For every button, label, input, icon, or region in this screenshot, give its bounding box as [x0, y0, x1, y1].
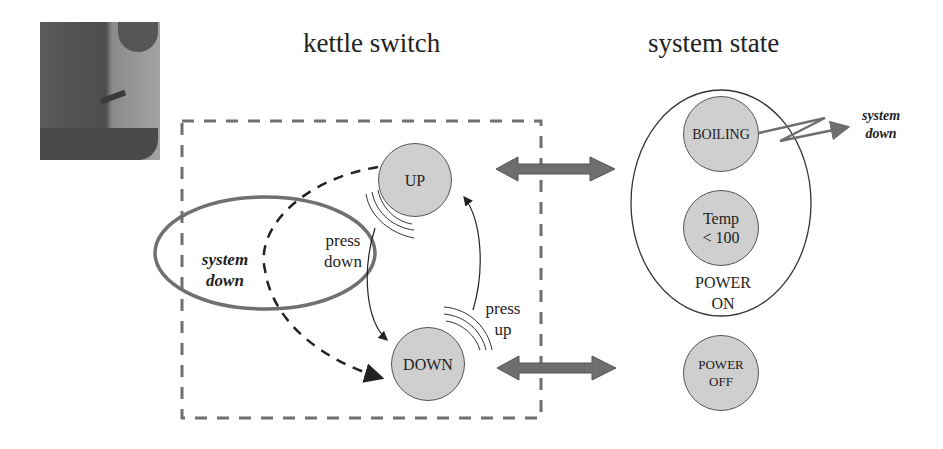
- power-on-line1: POWER: [688, 272, 758, 293]
- press-up-line2: up: [483, 319, 523, 340]
- press-up-arrow: [464, 197, 480, 310]
- press-up-line1: press: [483, 298, 523, 319]
- node-power-off-line2: OFF: [709, 373, 733, 390]
- zigzag-arrow: [759, 118, 848, 141]
- diagram-lines: [0, 0, 943, 449]
- node-up: UP: [378, 143, 452, 217]
- node-down-label: DOWN: [403, 355, 453, 374]
- system-down-switch-label: system down: [195, 249, 255, 291]
- system-down-line2: down: [195, 270, 255, 291]
- system-down-state-line2: down: [855, 125, 907, 143]
- press-down-line2: down: [318, 251, 368, 272]
- double-arrow-up-boiling: [496, 157, 615, 181]
- system-down-state-line1: system: [855, 107, 907, 125]
- node-boiling: BOILING: [683, 96, 759, 172]
- press-up-label: press up: [483, 298, 523, 340]
- node-temp-line2: < 100: [702, 228, 739, 247]
- power-on-line2: ON: [688, 293, 758, 314]
- node-up-label: UP: [405, 171, 425, 190]
- node-power-off-line1: POWER: [698, 356, 744, 373]
- node-temp: Temp < 100: [683, 190, 759, 266]
- node-down: DOWN: [391, 327, 465, 401]
- system-down-line1: system: [195, 249, 255, 270]
- press-down-line1: press: [318, 230, 368, 251]
- node-temp-line1: Temp: [703, 209, 739, 228]
- power-on-label: POWER ON: [688, 272, 758, 314]
- double-arrow-down-poweroff: [497, 356, 616, 380]
- press-down-label: press down: [318, 230, 368, 272]
- node-boiling-label: BOILING: [692, 125, 750, 144]
- node-power-off: POWER OFF: [683, 335, 759, 411]
- press-down-arrow: [367, 228, 387, 340]
- system-down-state-label: system down: [855, 107, 907, 143]
